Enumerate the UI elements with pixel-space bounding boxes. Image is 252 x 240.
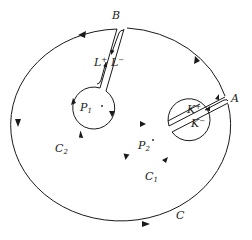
contour-drawing — [0, 0, 252, 240]
label-p2: P2 — [138, 140, 150, 153]
label-k-minus: K− — [191, 118, 205, 129]
arrow-k-plus — [215, 94, 219, 100]
contour-diagram: B A C C2 C1 P1 P2 L+ L− K+ K− — [0, 0, 252, 240]
outer-contour-c-top-right — [127, 28, 225, 96]
arrow-c1-left — [123, 154, 130, 161]
label-c2: C2 — [55, 143, 68, 156]
arrow-outer-top-left — [78, 31, 86, 38]
arrow-c2-left — [71, 98, 76, 105]
arrow-outer-left — [15, 119, 21, 127]
label-p1: P1 — [80, 102, 92, 115]
arrow-c1-right — [162, 157, 168, 163]
label-c: C — [176, 210, 184, 221]
arrow-c1-top — [140, 121, 146, 127]
label-c1: C1 — [145, 171, 158, 184]
pole-p1-dot — [101, 105, 103, 107]
label-k-plus: K+ — [187, 104, 201, 115]
pole-p2-dot — [152, 139, 154, 141]
label-a: A — [231, 93, 239, 104]
label-b: B — [112, 10, 120, 21]
arrow-outer-bottom — [142, 221, 150, 227]
arrow-c2-bottom — [77, 131, 83, 140]
label-l-plus: L+ — [94, 57, 107, 68]
label-l-minus: L− — [111, 57, 124, 68]
